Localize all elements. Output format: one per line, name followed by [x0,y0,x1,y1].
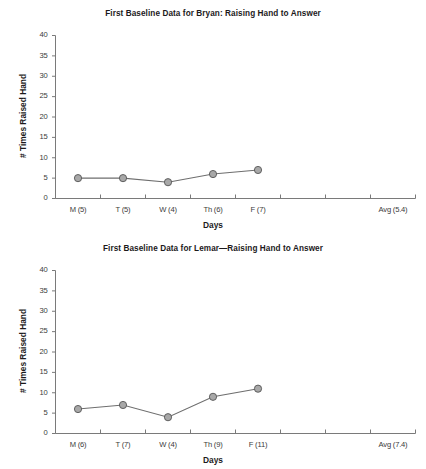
data-point-marker [119,175,126,182]
y-axis-title: # Times Raised Hand [18,309,28,393]
data-point-marker [74,405,81,412]
data-point-marker [254,166,261,173]
x-axis-title: Days [0,220,426,230]
data-point-marker [164,179,171,186]
chart-panel-lemar: First Baseline Data for Lemar—Raising Ha… [0,235,426,469]
y-axis-title: # Times Raised Hand [18,74,28,158]
data-point-marker [164,414,171,421]
data-point-marker [209,170,216,177]
plot-svg [0,0,426,234]
data-point-marker [254,385,261,392]
data-point-marker [119,401,126,408]
data-point-marker [74,175,81,182]
chart-panel-bryan: First Baseline Data for Bryan: Raising H… [0,0,426,234]
data-series-line [78,389,258,418]
figure-page: First Baseline Data for Bryan: Raising H… [0,0,426,469]
plot-svg [0,235,426,469]
data-point-marker [209,393,216,400]
x-axis-title: Days [0,455,426,465]
